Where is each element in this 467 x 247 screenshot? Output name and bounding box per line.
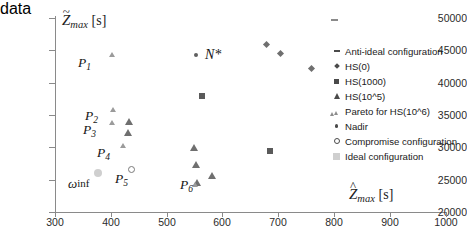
open-circle-icon (330, 138, 343, 144)
x-tick-label: 300 (35, 217, 75, 228)
data-point-hs1e5 (125, 118, 133, 125)
point-label-p6: P6 (180, 177, 193, 194)
pareto-triangle-icon (330, 107, 343, 116)
data-point-hs1e5 (124, 129, 132, 136)
x-tick-label: 600 (202, 217, 242, 228)
x-title-subscript: max (357, 193, 375, 204)
data-point-compromise (128, 166, 135, 173)
triangle-icon (330, 93, 343, 99)
legend-label: Ideal configuration (345, 151, 423, 162)
dot-icon (330, 124, 343, 128)
x-tick-label: 900 (370, 217, 410, 228)
point-label-p5-sub: 5 (123, 178, 128, 188)
data-point-pareto (120, 143, 126, 148)
y-tick (49, 18, 55, 19)
y-tick (49, 83, 55, 84)
legend-item-hs1e5[interactable]: HS(10^5) (330, 89, 457, 103)
x-axis-title: ^Zmax [s] (349, 186, 393, 204)
point-label-omega-sup: inf (77, 177, 89, 189)
legend-label: Compromise configuration (345, 136, 457, 147)
data-point-hs0 (277, 50, 284, 57)
point-label-p4-sub: 4 (105, 152, 110, 162)
y-axis-line (55, 16, 56, 213)
y-tick (49, 180, 55, 181)
x-tick-label: 400 (91, 217, 131, 228)
point-label-omega-inf: ωinf (68, 176, 89, 192)
point-label-nadir: N* (205, 47, 221, 63)
point-label-p6-sub: 6 (188, 184, 193, 194)
square-icon (330, 79, 343, 84)
point-label-p3: P3 (83, 122, 96, 139)
dash-icon (330, 50, 343, 52)
y-axis-title: ~Zmax [s] (62, 12, 106, 30)
y-tick-label: 50000 (420, 13, 467, 23)
y-tick-label: 25000 (420, 175, 467, 185)
x-title-accent: ^ (350, 179, 356, 192)
legend-item-hs1000[interactable]: HS(1000) (330, 74, 457, 88)
data-point-pareto (109, 52, 115, 57)
point-label-p3-sub: 3 (91, 129, 96, 139)
legend-item-hs0[interactable]: HS(0) (330, 59, 457, 73)
point-label-p4: P4 (97, 145, 110, 162)
point-label-p5: P5 (115, 171, 128, 188)
data-point-hs1000 (199, 93, 205, 99)
y-title-unit: [s] (92, 13, 107, 28)
data-point-hs1e5 (208, 172, 216, 179)
y-tick (49, 115, 55, 116)
legend-label: HS(0) (345, 61, 370, 72)
x-tick-label: 800 (314, 217, 354, 228)
point-label-p1: P1 (78, 55, 91, 72)
x-tick-label: 500 (147, 217, 187, 228)
legend-item-compromise[interactable]: Compromise configuration (330, 134, 457, 148)
data-point-anti-ideal (331, 19, 338, 21)
legend-item-pareto[interactable]: Pareto for HS(10^6) (330, 104, 457, 118)
data-point-hs0 (263, 41, 270, 48)
y-tick (49, 147, 55, 148)
data-point-pareto (109, 120, 115, 125)
y-title-accent: ~ (63, 5, 70, 18)
data-point-pareto (110, 107, 116, 112)
data-point-hs1e5 (192, 161, 200, 168)
data-point-nadir (194, 53, 198, 57)
point-label-p6-text: P (180, 177, 188, 192)
point-label-p5-text: P (115, 171, 123, 186)
y-title-subscript: max (70, 19, 88, 30)
legend-item-nadir[interactable]: Nadir (330, 119, 457, 133)
point-label-p1-sub: 1 (86, 62, 91, 72)
point-label-p4-text: P (97, 145, 105, 160)
data-point-hs1000 (267, 148, 273, 154)
point-label-p3-text: P (83, 122, 91, 137)
legend-label: Pareto for HS(10^6) (345, 106, 430, 117)
point-label-p1-text: P (78, 55, 86, 70)
legend-label: Anti-ideal configuration (345, 46, 443, 57)
data-point-hs1e5 (190, 144, 198, 151)
legend-item-anti-ideal[interactable]: Anti-ideal configuration (330, 44, 457, 58)
legend-item-ideal[interactable]: Ideal configuration (330, 149, 457, 163)
scatter-plot: 50000 45000 40000 35000 30000 25000 2000… (0, 0, 467, 247)
x-tick-label: 1000 (426, 217, 466, 228)
legend-label: HS(1000) (345, 76, 386, 87)
point-label-omega-symbol: ω (68, 176, 77, 191)
data-point-hs0 (308, 65, 315, 72)
x-title-unit: [s] (379, 187, 394, 202)
diamond-icon (330, 64, 343, 68)
legend: Anti-ideal configuration HS(0) HS(1000) … (330, 44, 457, 163)
legend-label: Nadir (345, 121, 368, 132)
data-point-ideal (94, 169, 102, 177)
light-square-icon (330, 153, 343, 160)
legend-label: HS(10^5) (345, 91, 385, 102)
x-axis-line (55, 212, 446, 213)
x-tick-label: 700 (258, 217, 298, 228)
y-tick (49, 50, 55, 51)
point-label-p2-text: P (85, 108, 93, 123)
